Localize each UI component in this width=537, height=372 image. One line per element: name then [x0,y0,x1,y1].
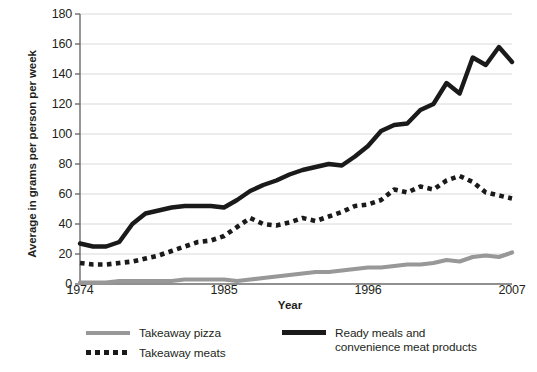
legend-item-takeaway-pizza: Takeaway pizza [86,326,225,340]
x-tick-label: 1974 [66,283,93,297]
legend-label-takeaway-pizza: Takeaway pizza [139,326,221,340]
chart-plot-area [0,0,537,372]
legend-swatch-dotted-black-line [86,346,130,360]
legend-swatch-solid-gray-line [86,326,130,340]
legend-swatch-solid-black-line [282,326,326,340]
legend-item-takeaway-meats: Takeaway meats [86,346,225,360]
x-axis-title: Year [80,299,500,311]
x-tick-label: 1985 [210,283,237,297]
legend-label-ready-meals: Ready meals and convenience meat product… [335,326,477,354]
x-tick-label: 2007 [498,283,525,297]
series-line-takeaway-meats [80,176,512,265]
axis-lines [80,14,512,284]
series-line-ready-meals-and-convenience-meat-products [80,47,512,247]
legend-item-ready-meals: Ready meals and convenience meat product… [282,326,477,354]
chart-container: Average in grams per person per week 180… [0,0,537,372]
x-tick-label: 1996 [354,283,381,297]
data-series [80,47,512,283]
legend-label-takeaway-meats: Takeaway meats [139,346,225,360]
